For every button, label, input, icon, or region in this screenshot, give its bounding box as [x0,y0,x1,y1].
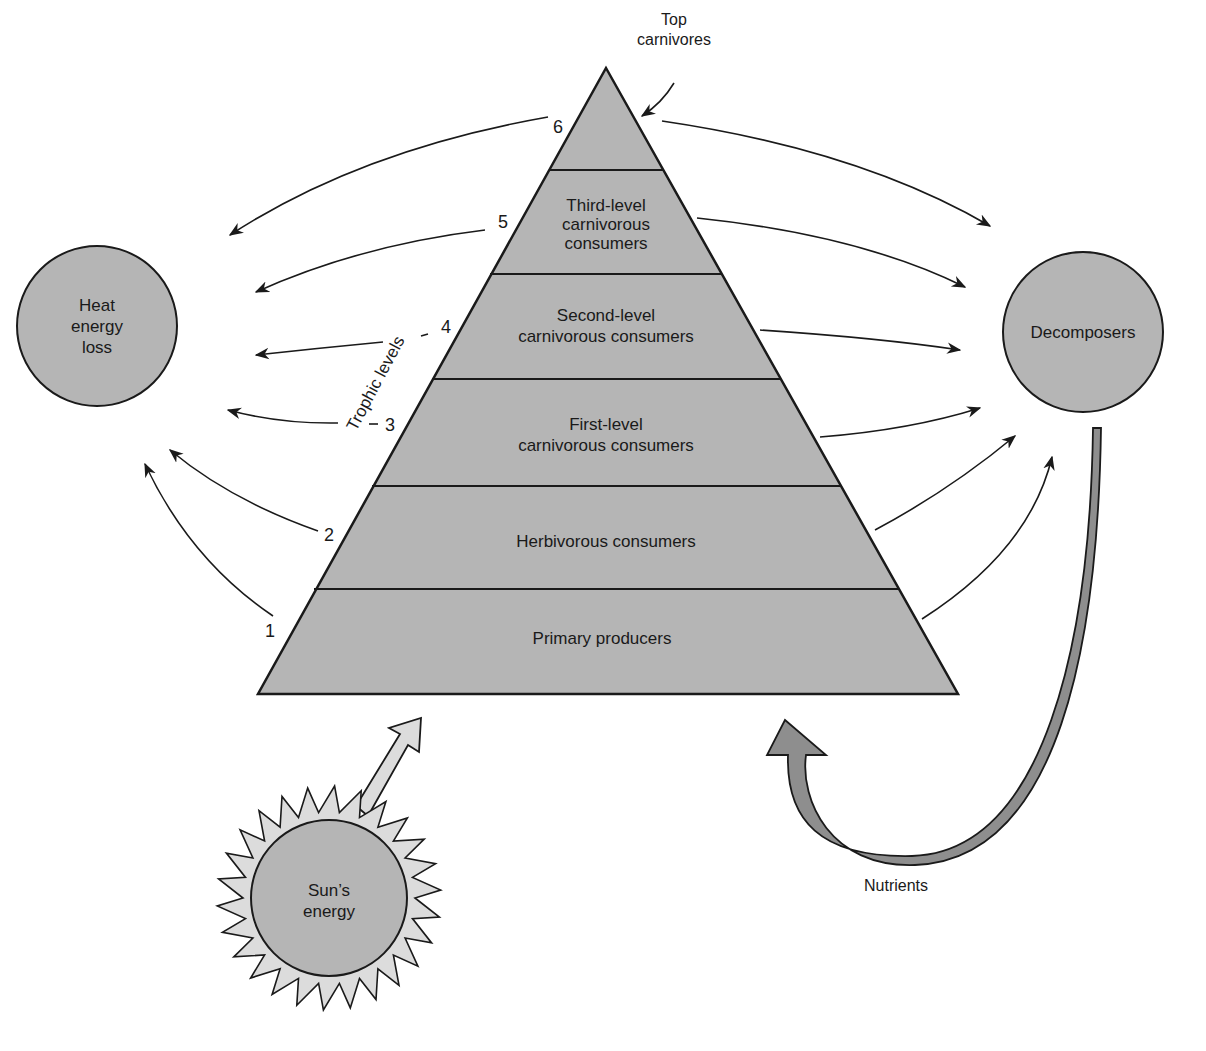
band-label-4-line2: carnivorous consumers [518,327,694,346]
level-number-3: 3 [385,415,395,435]
band-label-5-line2: carnivorous [562,215,650,234]
heat-loss-label-line3: loss [82,338,112,357]
sun-label-line1: Sun’s [308,881,350,900]
decomp-arrow-level-5 [697,218,965,287]
top-carnivores-label-line2: carnivores [637,31,711,48]
heat-loss-label-line2: energy [71,317,123,336]
heat-arrow-level-4 [256,342,383,355]
trophic-levels-label: Trophic levels [343,333,409,434]
heat-arrow-level-5 [256,230,485,292]
decomp-arrow-level-4 [760,330,960,350]
decomp-arrow-level-3 [820,408,980,437]
level-number-4: 4 [441,317,451,337]
level-number-1: 1 [265,621,275,641]
trophic-diagram: Third-level carnivorous consumers Second… [0,0,1206,1051]
band-label-1: Primary producers [533,629,672,648]
band-label-4-line1: Second-level [557,306,655,325]
decomp-arrow-level-6 [662,121,990,226]
band-label-3-line1: First-level [569,415,643,434]
heat-loss-label-line1: Heat [79,296,115,315]
sun-label-line2: energy [303,902,355,921]
band-label-5-line3: consumers [564,234,647,253]
band-label-2: Herbivorous consumers [516,532,696,551]
pyramid-shape [258,68,958,694]
trophic-pyramid: Third-level carnivorous consumers Second… [258,68,958,694]
heat-arrow-level-2 [170,450,318,531]
nutrients-label: Nutrients [864,877,928,894]
sun-energy-arrow [356,718,421,816]
heat-arrow-level-3 [228,410,338,423]
level-number-2: 2 [324,525,334,545]
decomp-arrow-level-1 [922,457,1052,619]
level-number-5: 5 [498,212,508,232]
level-number-6: 6 [553,117,563,137]
top-carnivores-pointer-arrow [642,83,674,116]
decomposers-label: Decomposers [1031,323,1136,342]
heat-arrow-level-1 [145,464,273,616]
sun-node: Sun’s energy [217,718,440,1010]
tick-dash-4 [421,334,428,336]
decomp-arrow-level-2 [875,436,1015,530]
top-carnivores-label-line1: Top [661,11,687,28]
band-label-5-line1: Third-level [566,196,645,215]
decomposers-node: Decomposers [1003,252,1163,412]
band-label-3-line2: carnivorous consumers [518,436,694,455]
heat-energy-loss-node: Heat energy loss [17,246,177,406]
